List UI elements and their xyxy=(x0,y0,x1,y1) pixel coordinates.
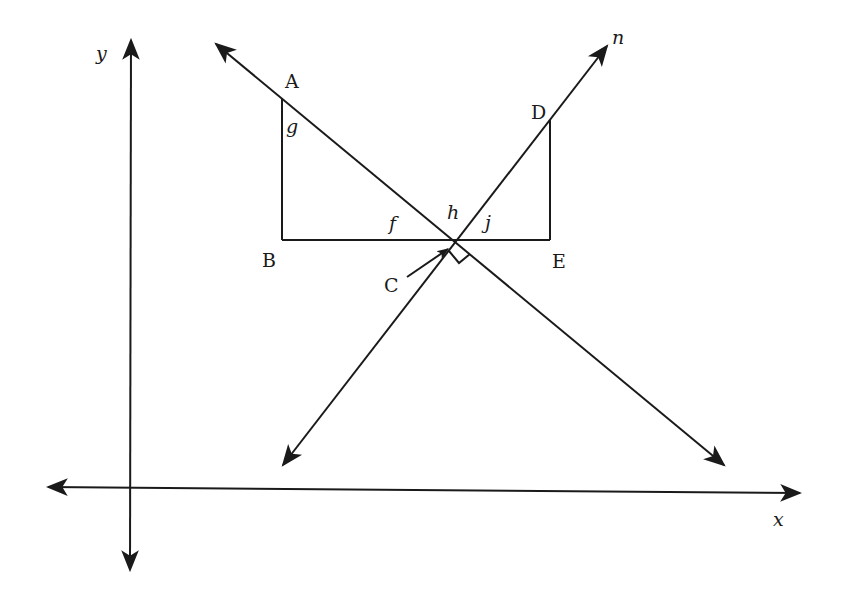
angle-h-label: h xyxy=(447,201,459,223)
angle-f-label: f xyxy=(387,212,399,234)
point-E-label: E xyxy=(552,250,566,272)
y-axis xyxy=(130,40,131,570)
x-axis-label: x xyxy=(773,508,784,530)
y-axis-label: y xyxy=(95,42,107,64)
line-n-label: n xyxy=(612,26,624,48)
point-A-label: A xyxy=(284,70,299,92)
x-axis xyxy=(48,487,800,493)
angle-g-label: g xyxy=(286,115,298,137)
point-C-label: C xyxy=(384,274,399,296)
point-C-pointer xyxy=(407,249,448,277)
angle-j-label: j xyxy=(481,211,491,233)
point-D-label: D xyxy=(531,101,546,123)
point-B-label: B xyxy=(262,249,276,271)
geometry-diagram: y x x x x x x x x x x x x x x x x x n A … xyxy=(0,0,841,604)
